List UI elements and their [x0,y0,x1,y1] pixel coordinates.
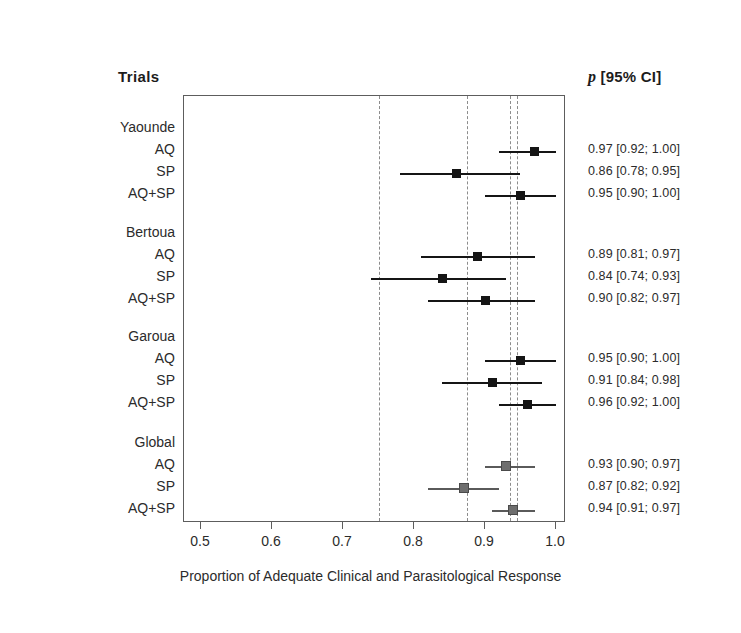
ci-value-garoua-aq-plus-sp: 0.96 [0.92; 1.00] [588,395,680,409]
group-label-yaounde: Yaounde [55,119,175,135]
x-axis-title: Proportion of Adequate Clinical and Para… [0,568,741,584]
row-label-global-aq: AQ [55,456,175,472]
ci-value-global-aq: 0.93 [0.90; 0.97] [588,457,680,471]
estimate-marker [438,274,447,283]
x-tick-label-0-5: 0.5 [180,533,220,549]
ci-value-bertoua-aq: 0.89 [0.81; 0.97] [588,247,680,261]
row-label-yaounde-aq: AQ [55,141,175,157]
row-label-bertoua-aq: AQ [55,246,175,262]
row-label-yaounde-sp: SP [55,163,175,179]
estimate-marker [481,296,490,305]
group-label-garoua: Garoua [55,328,175,344]
estimate-marker [473,252,482,261]
reference-line-0-945 [517,96,518,521]
estimate-marker [488,378,497,387]
ci-value-garoua-sp: 0.91 [0.84; 0.98] [588,373,680,387]
x-tick-0-7 [342,522,343,529]
reference-line-0-935 [510,96,511,521]
ci-column-header: p [95% CI] [588,68,661,86]
x-tick-0-6 [271,522,272,529]
reference-line-0-75 [379,96,380,521]
x-tick-0-9 [484,522,485,529]
estimate-marker [516,356,525,365]
ci-value-yaounde-aq: 0.97 [0.92; 1.00] [588,142,680,156]
estimate-marker [452,169,461,178]
x-tick-label-0-7: 0.7 [322,533,362,549]
row-label-garoua-aq-plus-sp: AQ+SP [55,394,175,410]
x-tick-0-8 [413,522,414,529]
pooled-estimate-marker [459,483,469,493]
row-label-global-aq-plus-sp: AQ+SP [55,500,175,516]
pooled-estimate-marker [501,461,511,471]
ci-whisker [499,151,556,153]
ci-value-bertoua-sp: 0.84 [0.74; 0.93] [588,269,680,283]
x-tick-label-0-8: 0.8 [393,533,433,549]
group-label-global: Global [55,434,175,450]
reference-line-0-875 [467,96,468,521]
x-tick-0-5 [200,522,201,529]
row-label-bertoua-sp: SP [55,268,175,284]
x-tick-1-0 [555,522,556,529]
ci-value-yaounde-sp: 0.86 [0.78; 0.95] [588,164,680,178]
row-label-garoua-aq: AQ [55,350,175,366]
p-symbol: p [588,68,596,85]
x-tick-label-1-0: 1.0 [535,533,575,549]
row-label-bertoua-aq-plus-sp: AQ+SP [55,290,175,306]
estimate-marker [523,400,532,409]
estimate-marker [516,191,525,200]
x-tick-label-0-9: 0.9 [464,533,504,549]
trials-column-header: Trials [118,68,160,85]
ci-value-yaounde-aq-plus-sp: 0.95 [0.90; 1.00] [588,186,680,200]
ci-value-bertoua-aq-plus-sp: 0.90 [0.82; 0.97] [588,291,680,305]
group-label-bertoua: Bertoua [55,224,175,240]
ci-bracket-label: [95% CI] [596,68,661,85]
forest-plot-figure: Trials p [95% CI] YaoundeAQSPAQ+SPBertou… [0,0,741,633]
row-label-global-sp: SP [55,478,175,494]
plot-area [183,95,565,522]
estimate-marker [530,147,539,156]
row-label-yaounde-aq-plus-sp: AQ+SP [55,185,175,201]
ci-value-global-sp: 0.87 [0.82; 0.92] [588,479,680,493]
ci-value-global-aq-plus-sp: 0.94 [0.91; 0.97] [588,501,680,515]
x-tick-label-0-6: 0.6 [251,533,291,549]
row-label-garoua-sp: SP [55,372,175,388]
ci-value-garoua-aq: 0.95 [0.90; 1.00] [588,351,680,365]
pooled-estimate-marker [508,505,518,515]
